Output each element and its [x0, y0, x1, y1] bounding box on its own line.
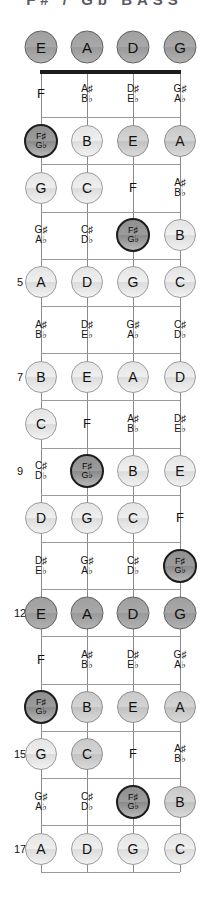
- note-fret15-stringD[interactable]: F: [129, 748, 137, 760]
- note-fret17-stringE[interactable]: A: [25, 833, 57, 865]
- note-fret7-stringE[interactable]: B: [25, 361, 57, 393]
- note-fret14-stringG[interactable]: A: [164, 691, 196, 723]
- note-fret14-stringD[interactable]: E: [117, 691, 149, 723]
- note-fret8-stringA[interactable]: F: [83, 418, 91, 430]
- fret-wire-3: [41, 212, 180, 213]
- note-flat-label: G♭: [35, 141, 46, 150]
- note-fret17-stringD[interactable]: G: [117, 833, 149, 865]
- note-fret12-stringE[interactable]: E: [25, 596, 58, 629]
- note-fret15-stringA[interactable]: C: [71, 738, 103, 770]
- note-fret1-stringD[interactable]: D♯E♭: [127, 84, 139, 104]
- note-fret7-stringG[interactable]: D: [164, 361, 196, 393]
- note-fret14-stringE[interactable]: F♯G♭: [24, 690, 58, 724]
- open-string-A[interactable]: A: [71, 31, 104, 64]
- note-fret17-stringA[interactable]: D: [71, 833, 103, 865]
- note-circle: B: [164, 786, 196, 818]
- note-fret9-stringG[interactable]: E: [164, 455, 196, 487]
- note-fret6-stringG[interactable]: C♯D♭: [174, 320, 186, 340]
- note-circle: B: [71, 691, 103, 723]
- note-fret7-stringA[interactable]: E: [71, 361, 103, 393]
- note-fret8-stringG[interactable]: D♯E♭: [174, 414, 186, 434]
- note-fret11-stringD[interactable]: C♯D♭: [127, 556, 139, 576]
- note-fret2-stringD[interactable]: E: [117, 125, 149, 157]
- open-string-G[interactable]: G: [164, 31, 197, 64]
- note-fret5-stringE[interactable]: A: [25, 266, 57, 298]
- note-circle: F♯G♭: [70, 454, 104, 488]
- note-fret8-stringD[interactable]: A♯B♭: [127, 414, 139, 434]
- fret-number-7: 7: [17, 371, 23, 383]
- note-circle: E: [117, 691, 149, 723]
- note-fret4-stringD[interactable]: F♯G♭: [116, 218, 150, 252]
- note-circle: F♯G♭: [163, 549, 197, 583]
- note-fret3-stringA[interactable]: C: [71, 172, 103, 204]
- note-text: C♯D♭: [127, 556, 139, 576]
- open-string-D[interactable]: D: [117, 31, 150, 64]
- note-fret16-stringG[interactable]: B: [164, 786, 196, 818]
- note-fret2-stringE[interactable]: F♯G♭: [24, 124, 58, 158]
- note-text: A♯B♭: [174, 178, 186, 198]
- note-fret5-stringA[interactable]: D: [71, 266, 103, 298]
- page-title: F# / Gb BASS: [0, 0, 209, 9]
- note-fret10-stringA[interactable]: G: [71, 502, 103, 534]
- note-fret13-stringA[interactable]: A♯B♭: [81, 650, 93, 670]
- note-fret12-stringD[interactable]: D: [117, 596, 150, 629]
- note-fret4-stringA[interactable]: C♯D♭: [81, 225, 93, 245]
- note-circle: A: [25, 833, 57, 865]
- note-circle: B: [117, 455, 149, 487]
- note-fret12-stringA[interactable]: A: [71, 596, 104, 629]
- note-fret13-stringD[interactable]: D♯E♭: [127, 650, 139, 670]
- open-string-E[interactable]: E: [25, 31, 58, 64]
- note-text: A♯B♭: [174, 744, 186, 764]
- note-fret13-stringE[interactable]: F: [37, 654, 45, 666]
- note-fret11-stringA[interactable]: G♯A♭: [81, 556, 94, 576]
- note-fret13-stringG[interactable]: G♯A♭: [174, 650, 187, 670]
- note-circle: G: [71, 502, 103, 534]
- note-fret15-stringG[interactable]: A♯B♭: [174, 744, 186, 764]
- note-fret16-stringA[interactable]: C♯D♭: [81, 792, 93, 812]
- note-fret6-stringE[interactable]: A♯B♭: [35, 320, 47, 340]
- note-flat-label: B♭: [35, 330, 47, 340]
- note-fret14-stringA[interactable]: B: [71, 691, 103, 723]
- note-fret1-stringG[interactable]: G♯A♭: [174, 84, 187, 104]
- note-fret17-stringG[interactable]: C: [164, 833, 196, 865]
- note-fret12-stringG[interactable]: G: [164, 596, 197, 629]
- note-fret8-stringE[interactable]: C: [25, 408, 57, 440]
- note-fret11-stringG[interactable]: F♯G♭: [163, 549, 197, 583]
- note-fret10-stringG[interactable]: F: [176, 512, 184, 524]
- note-fret10-stringE[interactable]: D: [25, 502, 57, 534]
- note-fret3-stringD[interactable]: F: [129, 182, 137, 194]
- note-circle: A: [71, 596, 104, 629]
- note-fret16-stringD[interactable]: F♯G♭: [116, 785, 150, 819]
- note-fret6-stringD[interactable]: G♯A♭: [127, 320, 140, 340]
- note-circle: C: [71, 172, 103, 204]
- open-string-circle: A: [71, 31, 104, 64]
- note-fret3-stringG[interactable]: A♯B♭: [174, 178, 186, 198]
- note-fret10-stringD[interactable]: C: [117, 502, 149, 534]
- note-fret2-stringG[interactable]: A: [164, 125, 196, 157]
- note-circle: G: [25, 738, 57, 770]
- note-circle: C: [25, 408, 57, 440]
- note-fret7-stringD[interactable]: A: [117, 361, 149, 393]
- note-fret3-stringE[interactable]: G: [25, 172, 57, 204]
- note-fret9-stringE[interactable]: C♯D♭: [35, 461, 47, 481]
- note-flat-label: A♭: [174, 660, 187, 670]
- note-fret6-stringA[interactable]: D♯E♭: [81, 320, 93, 340]
- note-circle: G: [117, 833, 149, 865]
- fret-wire-16: [41, 825, 180, 826]
- note-fret5-stringG[interactable]: C: [164, 266, 196, 298]
- note-fret1-stringA[interactable]: A♯B♭: [81, 84, 93, 104]
- bass-fretboard-diagram: F# / Gb BASS EADGFA♯B♭D♯E♭G♯A♭F♯G♭BEAGCF…: [0, 0, 209, 908]
- note-fret5-stringD[interactable]: G: [117, 266, 149, 298]
- note-text: F: [176, 512, 184, 524]
- note-fret9-stringD[interactable]: B: [117, 455, 149, 487]
- note-fret1-stringE[interactable]: F: [37, 88, 45, 100]
- note-text: C♯D♭: [174, 320, 186, 340]
- note-fret2-stringA[interactable]: B: [71, 125, 103, 157]
- note-fret4-stringE[interactable]: G♯A♭: [35, 225, 48, 245]
- note-fret15-stringE[interactable]: G: [25, 738, 57, 770]
- note-fret16-stringE[interactable]: G♯A♭: [35, 792, 48, 812]
- fret-wire-7: [41, 400, 180, 401]
- note-fret4-stringG[interactable]: B: [164, 219, 196, 251]
- note-fret9-stringA[interactable]: F♯G♭: [70, 454, 104, 488]
- note-fret11-stringE[interactable]: D♯E♭: [35, 556, 47, 576]
